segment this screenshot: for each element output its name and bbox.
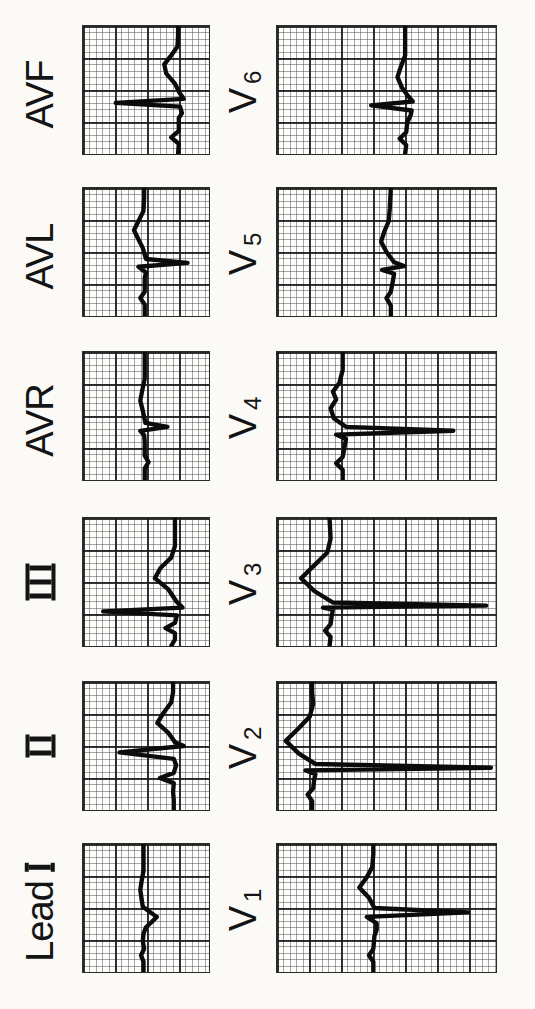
waveform-avf	[83, 26, 209, 154]
waveform-v1	[277, 844, 496, 972]
ecg-strip-v2	[276, 681, 497, 811]
waveform-v5	[277, 188, 496, 316]
lead-label-text: V	[225, 89, 263, 113]
lead-label-text: AVL	[21, 223, 59, 289]
lead-label-text: Lead	[21, 881, 59, 962]
lead-label-v6: V6	[213, 25, 274, 155]
lead-label-i: Lead	[0, 843, 80, 973]
ecg-strip-avr	[82, 351, 210, 481]
waveform-v2	[277, 682, 496, 810]
waveform-avr	[83, 352, 209, 480]
waveform-iii	[83, 518, 209, 646]
waveform-i	[83, 844, 209, 972]
lead-label-text: V	[225, 745, 263, 769]
lead-label-v4: V4	[213, 351, 274, 481]
lead-label-text: V	[225, 415, 263, 439]
lead-label-text: AVF	[21, 60, 59, 128]
ecg-strip-avf	[82, 25, 210, 155]
lead-label-ii	[0, 681, 80, 811]
lead-label-avf: AVF	[0, 25, 80, 155]
ecg-strip-ii	[82, 681, 210, 811]
lead-label-subscript: 6	[240, 71, 268, 84]
roman-numeral-ii	[25, 735, 55, 758]
waveform-v6	[277, 26, 496, 154]
lead-label-text: V	[225, 907, 263, 931]
ecg-strip-i	[82, 843, 210, 973]
lead-label-v2: V2	[213, 681, 274, 811]
lead-label-subscript: 1	[240, 889, 268, 902]
ecg-figure: AVF V6 AVL V5 AVR V4 V3	[0, 0, 535, 1009]
lead-label-avr: AVR	[0, 351, 80, 481]
lead-label-text: AVR	[21, 384, 59, 456]
roman-numeral-iii	[25, 564, 55, 601]
ecg-strip-v3	[276, 517, 497, 647]
lead-label-subscript: 2	[240, 727, 268, 740]
lead-label-v1: V1	[213, 843, 274, 973]
ecg-strip-v5	[276, 187, 497, 317]
roman-numeral-i	[25, 863, 55, 872]
waveform-avl	[83, 188, 209, 316]
ecg-strip-iii	[82, 517, 210, 647]
lead-label-subscript: 3	[240, 563, 268, 576]
lead-label-iii	[0, 517, 80, 647]
ecg-strip-v6	[276, 25, 497, 155]
lead-label-text: V	[225, 581, 263, 605]
lead-label-v5: V5	[213, 187, 274, 317]
waveform-v3	[277, 518, 496, 646]
waveform-ii	[83, 682, 209, 810]
lead-label-text: V	[225, 251, 263, 275]
lead-label-subscript: 5	[240, 233, 268, 246]
lead-label-avl: AVL	[0, 187, 80, 317]
lead-label-v3: V3	[213, 517, 274, 647]
lead-label-subscript: 4	[240, 397, 268, 410]
ecg-strip-avl	[82, 187, 210, 317]
ecg-strip-v4	[276, 351, 497, 481]
waveform-v4	[277, 352, 496, 480]
ecg-strip-v1	[276, 843, 497, 973]
